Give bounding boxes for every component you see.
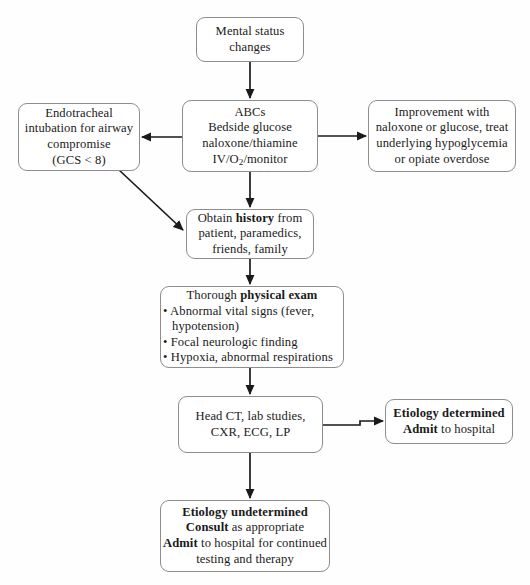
consult-keyword: Consult	[186, 520, 229, 534]
etiology-undetermined-title: Etiology undetermined	[182, 505, 308, 519]
node-line: testing and therapy	[196, 552, 294, 568]
exam-heading-keyword: physical exam	[240, 288, 317, 302]
node-line: (GCS < 8)	[52, 153, 105, 169]
iv-suffix: /monitor	[243, 152, 287, 166]
node-line: changes	[229, 40, 270, 56]
node-head-ct-lab-studies: Head CT, lab studies, CXR, ECG, LP	[178, 396, 323, 453]
node-line-iv-oxygen-monitor: IV/O2/monitor	[212, 152, 287, 168]
node-line: Bedside glucose	[208, 120, 292, 136]
node-line: naloxone/thiamine	[202, 136, 297, 152]
history-suffix: from	[274, 211, 302, 225]
node-line-admit: Admit to hospital	[403, 422, 495, 438]
node-line: or opiate overdose	[395, 152, 490, 168]
flowchart-canvas: Mental status changes ABCs Bedside gluco…	[0, 0, 530, 585]
node-line: ABCs	[234, 105, 265, 121]
node-thorough-physical-exam: Thorough physical exam • Abnormal vital …	[160, 286, 344, 368]
admit-keyword: Admit	[163, 536, 198, 550]
node-etiology-undetermined: Etiology undetermined Consult as appropr…	[160, 500, 330, 572]
node-line: Improvement with	[395, 105, 490, 121]
exam-bullet: • Abnormal vital signs (fever, hypotensi…	[161, 304, 343, 335]
node-line: Head CT, lab studies,	[196, 409, 306, 425]
node-line: intubation for airway	[25, 121, 133, 137]
node-line-admit: Admit to hospital for continued	[163, 536, 327, 552]
node-line: CXR, ECG, LP	[211, 425, 291, 441]
node-line: Etiology undetermined	[182, 505, 308, 521]
history-keyword: history	[236, 211, 274, 225]
iv-prefix: IV/O	[212, 152, 238, 166]
etiology-determined-title: Etiology determined	[393, 406, 504, 420]
admit-keyword: Admit	[403, 422, 438, 436]
node-line-history: Obtain history from	[198, 211, 303, 227]
node-line: friends, family	[212, 242, 288, 258]
exam-bullet: • Focal neurologic finding	[161, 335, 343, 351]
exam-heading-prefix: Thorough	[187, 288, 241, 302]
node-line: Mental status	[216, 24, 285, 40]
node-abcs: ABCs Bedside glucose naloxone/thiamine I…	[182, 100, 318, 172]
node-line: naloxone or glucose, treat	[376, 120, 509, 136]
node-line: underlying hypoglycemia	[376, 136, 507, 152]
node-line: compromise	[47, 137, 110, 153]
admit-rest: to hospital for continued	[198, 536, 327, 550]
exam-heading: Thorough physical exam	[161, 288, 343, 304]
exam-bullet: • Hypoxia, abnormal respirations	[161, 350, 343, 366]
node-line: Endotracheal	[45, 106, 113, 122]
consult-rest: as appropriate	[229, 520, 305, 534]
node-endotracheal-intubation: Endotracheal intubation for airway compr…	[18, 103, 140, 171]
edge-workup-to-determined	[323, 421, 383, 425]
edge-intubation-to-history	[118, 169, 183, 230]
node-improvement-naloxone-glucose: Improvement with naloxone or glucose, tr…	[368, 100, 516, 172]
node-mental-status-changes: Mental status changes	[196, 17, 304, 62]
node-line: patient, paramedics,	[198, 226, 301, 242]
node-line: Etiology determined	[393, 406, 504, 422]
history-prefix: Obtain	[198, 211, 236, 225]
node-line-consult: Consult as appropriate	[186, 520, 304, 536]
node-etiology-determined: Etiology determined Admit to hospital	[385, 399, 513, 444]
node-obtain-history: Obtain history from patient, paramedics,…	[186, 209, 314, 259]
admit-rest: to hospital	[438, 422, 495, 436]
oxygen-subscript: 2	[239, 157, 244, 167]
